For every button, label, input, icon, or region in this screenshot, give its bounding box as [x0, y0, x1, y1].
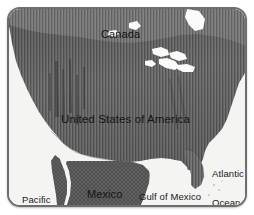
mexico-landmass	[59, 161, 151, 205]
map-graphic	[9, 9, 245, 205]
map-frame-border: Canada United States of America Mexico G…	[7, 7, 247, 207]
relief-shading	[9, 25, 245, 171]
map-figure: Canada United States of America Mexico G…	[0, 0, 254, 215]
